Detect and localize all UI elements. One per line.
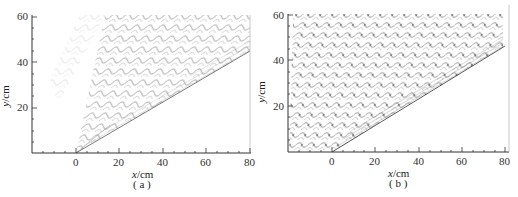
x-tick-label: 40	[157, 157, 168, 168]
y-axis-unit: /cm	[0, 85, 11, 102]
x-tick-label: 60	[456, 156, 467, 167]
y-axis-var: y	[0, 102, 11, 107]
y-tick-label: 60	[273, 10, 284, 21]
x-tick-label: 0	[329, 156, 335, 167]
x-tick-label: 80	[244, 157, 255, 168]
x-tick-label: 0	[73, 157, 79, 168]
x-tick-label: 80	[499, 156, 510, 167]
y-tick-label: 60	[17, 11, 28, 22]
x-tick-label: 40	[413, 156, 424, 167]
figure-caption	[0, 185, 518, 197]
x-tick-label: 20	[369, 156, 380, 167]
x-tick-label: 20	[113, 157, 124, 168]
plot-b-canvas	[259, 0, 518, 160]
x-tick-label: 60	[200, 157, 211, 168]
y-axis-label-a: y/cm	[0, 85, 11, 106]
panel-b: 60 40 20 0 20 40 60 80 y/cm x/cm ( b )	[259, 0, 518, 185]
y-axis-unit: /cm	[255, 81, 267, 98]
y-tick-label: 20	[273, 101, 284, 112]
panel-a: 60 40 20 0 20 40 60 80 y/cm x/cm ( a )	[0, 0, 259, 185]
y-axis-var: y	[255, 98, 267, 103]
y-tick-label: 20	[17, 102, 28, 113]
y-axis-label-b: y/cm	[255, 81, 267, 102]
y-tick-label: 40	[17, 57, 28, 68]
plot-a-canvas	[0, 0, 259, 160]
y-tick-label: 40	[273, 55, 284, 66]
